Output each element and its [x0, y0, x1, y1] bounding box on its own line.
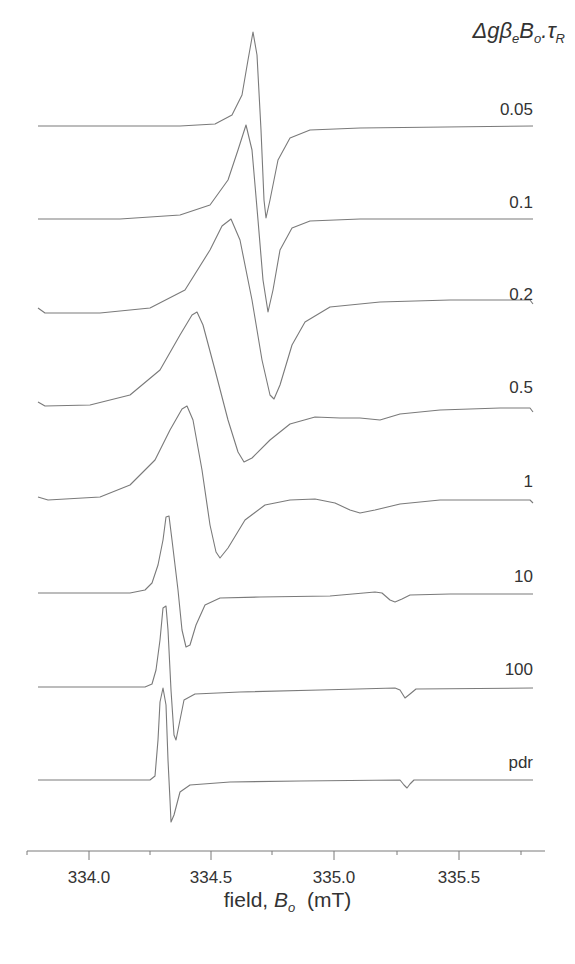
spectrum-trace [38, 406, 533, 558]
series-label: pdr [508, 753, 533, 772]
spectrum-trace [38, 125, 533, 312]
series-label: 0.1 [509, 193, 533, 212]
spectrum-trace [38, 312, 533, 462]
spectrum-trace [38, 32, 533, 218]
epr-spectra-chart: 0.050.10.20.5110100pdr 334.0334.5335.033… [0, 0, 575, 964]
spectrum-trace [38, 606, 533, 740]
series-label: 1 [524, 472, 533, 491]
x-axis-label: field, Bo (mT) [0, 888, 575, 915]
spectrum-trace [38, 688, 533, 822]
tick-label: 335.0 [313, 868, 356, 887]
legend-title: ΔgβeBo.τR [473, 18, 566, 46]
tick-label: 335.5 [438, 868, 481, 887]
spectra-traces [38, 32, 533, 822]
spectrum-trace [38, 516, 533, 647]
x-axis: 334.0334.5335.0335.5 [27, 851, 545, 887]
tick-label: 334.0 [68, 868, 111, 887]
series-label: 0.05 [500, 100, 533, 119]
series-label: 100 [505, 660, 533, 679]
series-labels: 0.050.10.20.5110100pdr [500, 100, 533, 772]
spectrum-trace [38, 219, 533, 399]
series-label: 0.5 [509, 378, 533, 397]
series-label: 0.2 [509, 285, 533, 304]
series-label: 10 [514, 567, 533, 586]
tick-label: 334.5 [190, 868, 233, 887]
